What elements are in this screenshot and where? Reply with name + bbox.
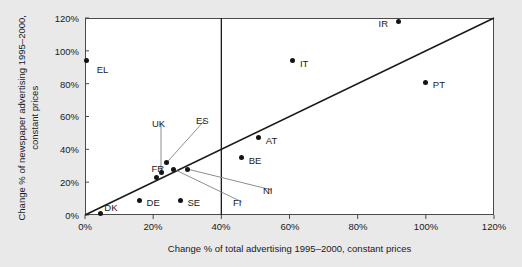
point-label-de: DE — [147, 198, 160, 208]
data-point-uk[interactable] — [159, 170, 164, 175]
x-tick-label-40: 40% — [199, 222, 243, 232]
plot-area — [85, 18, 494, 215]
x-axis-title: Change % of total advertising 1995–2000,… — [85, 243, 494, 254]
point-callout-label-uk: UK — [152, 119, 165, 129]
data-point-pt[interactable] — [423, 80, 428, 85]
data-point-fr[interactable] — [154, 175, 159, 180]
x-tick-label-20: 20% — [131, 222, 175, 232]
point-callout-label-es: ES — [196, 116, 209, 126]
point-label-se: SE — [187, 198, 200, 208]
data-point-ni[interactable] — [185, 167, 190, 172]
scatter-chart: 120% 100% 80% 60% 40% 20% 0% 0% 20% 40% … — [0, 0, 522, 267]
data-point-ir[interactable] — [396, 19, 401, 24]
point-label-dk: DK — [104, 203, 117, 213]
y-axis-title: Change % of newspaper advertising 1995–2… — [16, 13, 42, 223]
x-tick-label-0: 0% — [63, 222, 107, 232]
x-tick-label-80: 80% — [336, 222, 380, 232]
point-label-it: IT — [300, 59, 308, 69]
x-tick-label-120: 120% — [472, 222, 516, 232]
point-label-pt: PT — [433, 80, 445, 90]
point-label-ir: IR — [379, 19, 389, 29]
data-point-se[interactable] — [178, 198, 183, 203]
point-label-at: AT — [266, 136, 277, 146]
data-point-de[interactable] — [137, 198, 142, 203]
point-callout-label-ni: NI — [263, 186, 273, 196]
y-axis-title-text: Change % of newspaper advertising 1995–2… — [16, 15, 40, 220]
data-point-fi[interactable] — [171, 167, 176, 172]
point-callout-label-fi: FI — [233, 198, 241, 208]
x-tick-label-100: 100% — [404, 222, 448, 232]
point-label-be: BE — [249, 156, 262, 166]
x-tick-label-60: 60% — [268, 222, 312, 232]
point-label-el: EL — [97, 65, 109, 75]
data-point-dk[interactable] — [98, 211, 103, 216]
